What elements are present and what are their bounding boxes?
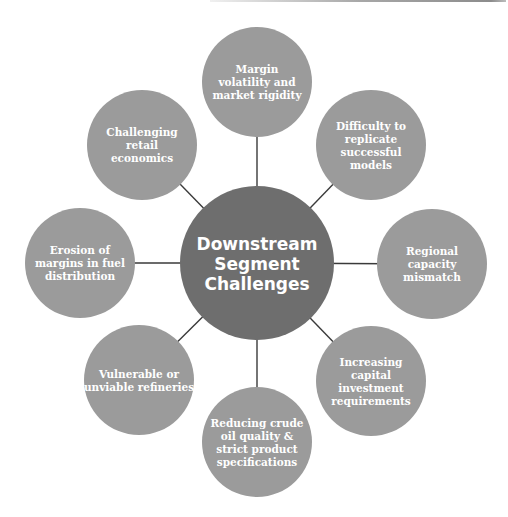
node-label-line: replicate	[345, 133, 398, 145]
node-label-line: capacity	[408, 258, 458, 270]
node-label-line: Regional	[406, 245, 458, 257]
node-label-line: investment	[338, 382, 404, 394]
node-label-line: market rigidity	[212, 89, 302, 101]
node-label-line: strict product	[216, 443, 297, 455]
node-vulnerable-refineries: Vulnerable orunviable refineries	[84, 325, 194, 435]
node-label-line: Increasing	[340, 356, 403, 368]
node-label-line: oil quality &	[221, 430, 294, 442]
challenges-diagram: Marginvolatility andmarket rigidityDiffi…	[0, 0, 508, 517]
node-label-line: Erosion of	[50, 244, 112, 256]
node-label-line: distribution	[45, 270, 115, 282]
node-label-line: models	[350, 159, 392, 171]
node-label-line: margins in fuel	[35, 257, 125, 269]
node-erosion-margins: Erosion ofmargins in fueldistribution	[25, 208, 135, 318]
node-label-line: Vulnerable or	[98, 368, 179, 380]
node-retail-economics: Challengingretaileconomics	[87, 90, 197, 200]
node-label-line: Reducing crude	[211, 417, 304, 429]
center-label-line-1: Downstream	[197, 234, 318, 254]
node-label-line: mismatch	[403, 271, 461, 283]
node-capital-investment: Increasingcapitalinvestmentrequirements	[316, 326, 426, 436]
node-crude-oil-quality: Reducing crudeoil quality &strict produc…	[202, 387, 312, 497]
node-difficulty-replicate: Difficulty toreplicatesuccessfulmodels	[316, 90, 426, 200]
node-label-line: Margin	[236, 63, 279, 75]
node-label-line: economics	[111, 152, 173, 164]
node-label-line: requirements	[331, 395, 411, 407]
node-label-line: successful	[341, 146, 402, 158]
node-label-line: Challenging	[106, 126, 178, 138]
center-node: Downstream Segment Challenges	[180, 186, 334, 340]
node-label-line: Difficulty to	[336, 120, 406, 132]
node-label-line: volatility and	[217, 76, 296, 88]
node-label-line: specifications	[217, 456, 298, 468]
node-label-line: retail	[126, 139, 158, 151]
node-margin-volatility: Marginvolatility andmarket rigidity	[202, 27, 312, 137]
node-label-line: unviable refineries	[84, 381, 194, 393]
center-label-line-2: Segment	[214, 254, 299, 274]
node-label-line: capital	[351, 369, 391, 381]
node-regional-capacity: Regionalcapacitymismatch	[377, 209, 487, 319]
center-label-line-3: Challenges	[204, 274, 309, 294]
